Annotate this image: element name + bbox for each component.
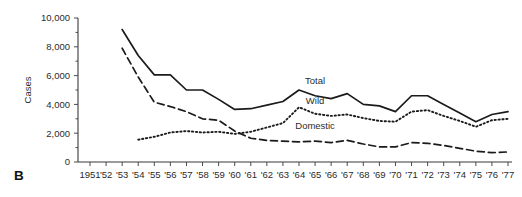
x-tick-label: '64 (293, 169, 305, 180)
y-tick-label: 10,000 (41, 12, 70, 23)
series-annotations-group: TotalWildDomestic (295, 75, 335, 131)
x-tick-label: '70 (389, 169, 401, 180)
x-tick-label: '65 (309, 169, 321, 180)
x-tick-label: '71 (405, 169, 417, 180)
x-tick-label: '59 (212, 169, 224, 180)
series-label-domestic: Domestic (295, 120, 335, 131)
x-tick-label: '52 (100, 169, 112, 180)
x-tick-label: '58 (196, 169, 208, 180)
x-tick-label: '54 (132, 169, 144, 180)
x-axis-ticks-group: 1951'52'53'54'55'56'57'58'59'60'61'62'63… (79, 162, 514, 180)
series-label-total: Total (305, 75, 325, 86)
x-tick-label: '67 (341, 169, 353, 180)
x-tick-label: '73 (437, 169, 449, 180)
x-tick-label: '62 (261, 169, 273, 180)
y-axis-title: Cases (22, 76, 33, 103)
x-tick-label: '75 (470, 169, 482, 180)
series-group (122, 30, 508, 153)
x-tick-label: '60 (228, 169, 240, 180)
x-tick-label: '66 (325, 169, 337, 180)
series-label-wild: Wild (306, 95, 324, 106)
chart-figure: 02,0004,0006,0008,00010,000Cases1951'52'… (0, 0, 522, 197)
x-tick-label: '68 (357, 169, 369, 180)
x-tick-label: '77 (502, 169, 514, 180)
y-tick-label: 6,000 (46, 70, 70, 81)
x-tick-label: '72 (421, 169, 433, 180)
line-chart-canvas: 02,0004,0006,0008,00010,000Cases1951'52'… (0, 0, 522, 197)
y-tick-label: 8,000 (46, 41, 70, 52)
y-tick-label: 0 (65, 156, 70, 167)
y-tick-label: 4,000 (46, 99, 70, 110)
x-tick-label: '63 (277, 169, 289, 180)
panel-label: B (14, 168, 24, 183)
y-tick-label: 2,000 (46, 128, 70, 139)
x-tick-label: '74 (454, 169, 466, 180)
x-tick-label: '57 (180, 169, 192, 180)
x-tick-label: '53 (116, 169, 128, 180)
x-tick-label: '55 (148, 169, 160, 180)
x-tick-label: '56 (164, 169, 176, 180)
x-tick-label: 1951 (79, 169, 100, 180)
axes-group: 02,0004,0006,0008,00010,000 (41, 12, 512, 167)
x-tick-label: '76 (486, 169, 498, 180)
x-tick-label: '69 (373, 169, 385, 180)
x-tick-label: '61 (245, 169, 257, 180)
